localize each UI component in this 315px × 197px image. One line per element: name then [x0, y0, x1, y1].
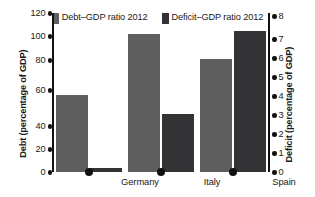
baseline-dot-icon-italy [157, 168, 165, 176]
tick-dot-icon [272, 113, 277, 118]
left-tick-60: 60 [35, 85, 52, 96]
right-tick-label-7: 7 [279, 35, 284, 44]
left-axis-line [52, 13, 54, 172]
right-tick-label-5: 5 [279, 73, 284, 82]
category-label-germany: Germany [108, 177, 172, 186]
left-tick-0: 0 [40, 167, 52, 178]
tick-dot-icon [272, 170, 277, 175]
bar-group-italy [128, 13, 192, 172]
right-tick-4: 4 [272, 91, 284, 102]
left-tick-40: 40 [35, 121, 52, 132]
tick-dot-icon [272, 94, 277, 99]
bar-group-germany [56, 13, 120, 172]
left-tick-label-120: 120 [30, 9, 45, 18]
left-tick-label-20: 20 [35, 145, 45, 154]
bar-deficit-italy [162, 114, 194, 172]
bar-deficit-spain [234, 31, 266, 172]
left-tick-80: 80 [35, 55, 52, 66]
left-axis-ticks: 0 20 40 60 80 100 120 [16, 0, 52, 197]
right-tick-label-2: 2 [279, 130, 284, 139]
left-tick-label-60: 60 [35, 86, 45, 95]
category-label-spain: Spain [252, 177, 315, 186]
left-tick-100: 100 [30, 31, 52, 42]
plot-area: Germany Italy Spain [52, 13, 270, 172]
left-tick-120: 120 [30, 8, 52, 19]
right-tick-label-4: 4 [279, 92, 284, 101]
left-tick-label-80: 80 [35, 56, 45, 65]
left-tick-20: 20 [35, 144, 52, 155]
right-tick-label-6: 6 [279, 54, 284, 63]
right-tick-label-3: 3 [279, 111, 284, 120]
right-tick-5: 5 [272, 72, 284, 83]
right-tick-6: 6 [272, 53, 284, 64]
bar-group-spain [200, 13, 264, 172]
right-tick-label-8: 8 [279, 12, 284, 21]
category-label-italy: Italy [180, 177, 244, 186]
right-tick-1: 1 [272, 148, 284, 159]
left-tick-label-40: 40 [35, 122, 45, 131]
bar-debt-germany [56, 95, 88, 172]
bar-debt-spain [200, 59, 232, 172]
baseline-dot-icon-germany [85, 168, 93, 176]
tick-dot-icon [272, 56, 277, 61]
bar-debt-italy [128, 34, 160, 172]
tick-dot-icon [272, 37, 277, 42]
right-tick-8: 8 [272, 11, 284, 22]
tick-dot-icon [272, 132, 277, 137]
bar-deficit-germany [90, 168, 122, 172]
left-tick-label-100: 100 [30, 32, 45, 41]
right-axis-ticks: 0 1 2 3 4 5 6 7 [272, 0, 306, 197]
baseline-dot-icon-spain [229, 168, 237, 176]
right-axis-line [268, 13, 270, 172]
right-tick-2: 2 [272, 129, 284, 140]
right-tick-7: 7 [272, 34, 284, 45]
tick-dot-icon [272, 75, 277, 80]
dual-axis-bar-chart: Debt–GDP ratio 2012 Deficit–GDP ratio 20… [0, 0, 315, 197]
tick-dot-icon [272, 151, 277, 156]
left-tick-label-0: 0 [40, 168, 45, 177]
right-tick-3: 3 [272, 110, 284, 121]
right-tick-label-1: 1 [279, 149, 284, 158]
tick-dot-icon [272, 14, 277, 19]
